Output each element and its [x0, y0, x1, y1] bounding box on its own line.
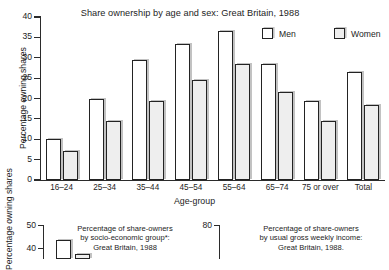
y-axis-tick-label-30: 30 — [2, 52, 32, 62]
sub-right-ytick-80: 80 — [194, 220, 212, 230]
legend-item-men: Men — [262, 28, 296, 39]
y-axis-tick-label-20: 20 — [2, 93, 32, 103]
bar-men-75-or-over — [304, 101, 319, 180]
y-axis-tick-30 — [34, 57, 40, 58]
sub-left-ytick-50: 50 — [18, 220, 36, 230]
bottom-charts-strip: Percentage owning shares 50 40 Percentag… — [0, 205, 389, 259]
main-bar-chart: Share ownership by age and sex: Great Br… — [0, 0, 389, 200]
sub-right-caption-line3: Great Britain, 1988. — [236, 243, 386, 252]
sub-left-caption-line3: Great Britain, 1988 — [60, 243, 190, 252]
sub-left-y-axis-title: Percentage owning shares — [4, 204, 14, 270]
bar-men-16-24 — [46, 139, 61, 180]
bar-men-65-74 — [261, 64, 276, 180]
bar-men-45-54 — [175, 44, 190, 181]
y-axis-tick-label-35: 35 — [2, 31, 32, 41]
x-axis-line — [40, 180, 385, 181]
y-axis-tick-5 — [34, 159, 40, 160]
bar-women-25-34 — [106, 121, 121, 180]
y-axis-tick-label-25: 25 — [2, 72, 32, 82]
y-axis-tick-25 — [34, 78, 40, 79]
bar-women-75-or-over — [321, 121, 336, 180]
bar-women-16-24 — [63, 151, 78, 180]
sub-left-y-axis-line — [43, 225, 44, 259]
y-axis-tick-15 — [34, 118, 40, 119]
y-axis-tick-label-15: 15 — [2, 113, 32, 123]
bar-men-25-34 — [89, 99, 104, 181]
bar-women-total — [364, 105, 379, 180]
y-axis-tick-20 — [34, 98, 40, 99]
bar-men-55-64 — [218, 31, 233, 180]
legend-swatch-men-icon — [262, 28, 273, 39]
sub-left-caption-line2: by socio-economic group*: — [60, 233, 190, 242]
bar-men-total — [347, 72, 362, 180]
weekly-income-chart: 80 Percentage of share-owners by usual g… — [190, 205, 389, 259]
legend-label-men: Men — [279, 29, 296, 39]
y-axis-line — [40, 16, 41, 181]
x-axis-label-total: Total — [336, 183, 389, 192]
legend-swatch-women-icon — [334, 28, 345, 39]
bar-women-45-54 — [192, 80, 207, 180]
y-axis-tick-label-5: 5 — [2, 154, 32, 164]
y-axis-tick-label-40: 40 — [2, 11, 32, 21]
chart-title: Share ownership by age and sex: Great Br… — [60, 8, 320, 18]
bar-women-65-74 — [278, 92, 293, 180]
sub-right-caption: Percentage of share-owners by usual gros… — [236, 224, 386, 252]
socio-economic-chart: Percentage owning shares 50 40 Percentag… — [0, 205, 190, 259]
bar-women-35-44 — [149, 101, 164, 180]
sub-left-ytick-40: 40 — [18, 243, 36, 253]
sub-left-bar-2 — [75, 254, 90, 259]
y-axis-tick-40 — [34, 16, 40, 17]
sub-left-caption-line1: Percentage of share-owners — [60, 224, 190, 233]
legend-item-women: Women — [334, 28, 380, 39]
y-axis-tick-0 — [34, 179, 40, 180]
sub-right-caption-line2: by usual gross weekly income: — [236, 233, 386, 242]
y-axis-tick-35 — [34, 37, 40, 38]
y-axis-tick-10 — [34, 139, 40, 140]
sub-right-caption-line1: Percentage of share-owners — [236, 224, 386, 233]
y-axis-tick-label-10: 10 — [2, 133, 32, 143]
sub-right-y-axis-line — [219, 225, 220, 259]
bar-women-55-64 — [235, 64, 250, 180]
legend-label-women: Women — [351, 29, 380, 39]
bar-men-35-44 — [132, 60, 147, 180]
sub-left-caption: Percentage of share-owners by socio-econ… — [60, 224, 190, 252]
